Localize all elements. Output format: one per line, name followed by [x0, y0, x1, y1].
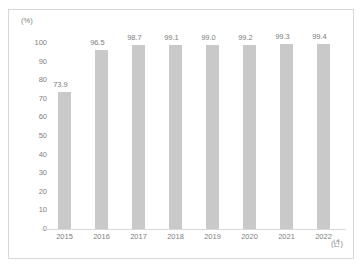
bar-value-label: 99.4: [305, 32, 334, 41]
bar-group: 99.02019: [202, 10, 239, 229]
bar[interactable]: [243, 45, 256, 230]
bar[interactable]: [280, 44, 293, 229]
bar-value-label: 99.1: [157, 33, 186, 42]
x-axis-tick-label: 2019: [197, 232, 228, 241]
bar-value-label: 99.3: [268, 32, 297, 41]
bar-group: 99.22020: [239, 10, 276, 229]
x-axis-unit-label: (년): [331, 237, 343, 248]
bar-group: 98.72017: [128, 10, 165, 229]
bar-group: 96.52016: [91, 10, 128, 229]
chart-frame: (%) 1009080706050403020100 73.9201596.52…: [8, 9, 354, 259]
y-axis-unit-label: (%): [21, 16, 33, 25]
x-axis-tick-label: 2021: [271, 232, 302, 241]
x-axis-tick-label: 2020: [234, 232, 265, 241]
bar[interactable]: [169, 45, 182, 229]
bar-group: 99.32021: [276, 10, 313, 229]
x-axis-tick-label: 2016: [86, 232, 117, 241]
bar-series: 73.9201596.5201698.7201799.1201899.02019…: [42, 10, 346, 229]
bar-value-label: 96.5: [83, 38, 112, 47]
plot-area: (%) 1009080706050403020100 73.9201596.52…: [9, 10, 353, 258]
bar[interactable]: [206, 45, 219, 229]
bar[interactable]: [132, 45, 145, 229]
x-axis-tick-label: 2017: [123, 232, 154, 241]
bar-value-label: 99.2: [231, 33, 260, 42]
bar[interactable]: [58, 92, 71, 229]
bar[interactable]: [95, 50, 108, 229]
x-axis-line: [42, 229, 346, 230]
bar[interactable]: [317, 44, 330, 229]
bar-value-label: 98.7: [120, 33, 149, 42]
x-axis-tick-label: 2018: [160, 232, 191, 241]
bar-group: 99.12018: [165, 10, 202, 229]
bar-value-label: 99.0: [194, 33, 223, 42]
bar-value-label: 73.9: [46, 80, 75, 89]
x-axis-tick-label: 2015: [49, 232, 80, 241]
bar-group: 99.42022: [313, 10, 350, 229]
